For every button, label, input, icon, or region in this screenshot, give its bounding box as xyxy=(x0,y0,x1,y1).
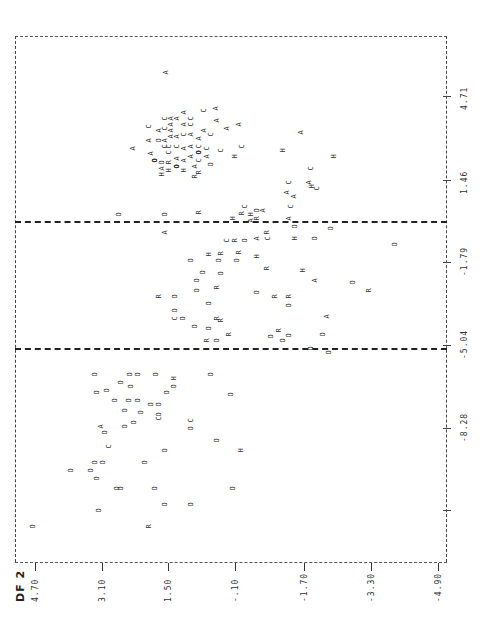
df2-tick-label: 3.10 xyxy=(98,579,107,602)
data-point-o: O xyxy=(118,380,125,384)
data-point-r: R xyxy=(204,338,211,342)
plot-frame-top xyxy=(15,36,447,37)
data-point-a: A xyxy=(188,144,195,148)
df2-tick xyxy=(35,563,36,571)
data-point-o: O xyxy=(188,502,195,506)
data-point-o: O xyxy=(138,410,145,414)
data-point-h: H xyxy=(171,376,178,380)
data-point-a: A xyxy=(254,236,261,240)
data-point-a: A xyxy=(213,106,220,110)
data-point-o: O xyxy=(118,486,125,490)
df2-tick-label: -.10 xyxy=(231,579,240,602)
data-point-h: H xyxy=(159,172,166,176)
df2-tick-label: -1.70 xyxy=(300,573,309,602)
data-point-c: C xyxy=(166,144,173,148)
data-point-c: C xyxy=(188,122,195,126)
data-point-a: A xyxy=(168,122,175,126)
data-point-a: A xyxy=(148,151,155,155)
data-point-o: O xyxy=(242,238,249,242)
data-point-a: A xyxy=(312,278,319,282)
df1-tick xyxy=(443,96,451,97)
data-point-a: A xyxy=(224,126,231,130)
data-point-r: R xyxy=(272,294,279,298)
data-point-c: C xyxy=(196,158,203,162)
data-point-a: A xyxy=(192,164,199,168)
data-point-o: O xyxy=(156,412,163,416)
data-point-o: O xyxy=(142,460,149,464)
df2-tick xyxy=(371,563,372,571)
data-point-o: O xyxy=(192,324,199,328)
data-point-h: H xyxy=(181,168,188,172)
data-point-a: A xyxy=(204,154,211,158)
data-point-a: A xyxy=(291,194,298,198)
data-point-o: O xyxy=(326,350,333,354)
data-point-o: O xyxy=(218,271,225,275)
data-point-r: R xyxy=(192,174,199,178)
data-point-c: C xyxy=(146,124,153,128)
df2-tick-label: 1.50 xyxy=(164,579,173,602)
data-point-o: O xyxy=(94,390,101,394)
data-point-o: O xyxy=(100,460,107,464)
data-point-o: O xyxy=(148,402,155,406)
data-point-r: R xyxy=(156,294,163,298)
data-point-r: R xyxy=(232,238,239,242)
data-point-a: A xyxy=(162,230,169,234)
data-point-o: O xyxy=(172,294,179,298)
data-point-c: C xyxy=(201,108,208,112)
data-point-a: A xyxy=(196,136,203,140)
df1-tick-label: 1.46 xyxy=(460,171,469,194)
data-point-o: O xyxy=(214,338,221,342)
data-point-o: O xyxy=(92,460,99,464)
data-point-a: A xyxy=(163,70,170,74)
df2-tick-label: -3.30 xyxy=(367,573,376,602)
data-point-o: O xyxy=(104,388,111,392)
data-point-r: R xyxy=(218,251,225,255)
plot-frame-left xyxy=(15,36,16,562)
data-point-o: O xyxy=(152,486,159,490)
data-point-o: O xyxy=(122,408,129,412)
data-point-o: O xyxy=(206,326,213,330)
df1-tick-label: -8.28 xyxy=(460,413,469,442)
data-point-o: O xyxy=(286,303,293,307)
data-point-o: O xyxy=(30,524,37,528)
data-point-o: O xyxy=(320,332,327,336)
data-point-r: R xyxy=(264,230,271,234)
df2-tick xyxy=(235,563,236,571)
data-point-a: A xyxy=(236,122,243,126)
data-point-a: A xyxy=(286,216,293,220)
data-point-c: C xyxy=(156,416,163,420)
data-point-c: C xyxy=(242,204,249,208)
data-point-c: C xyxy=(188,418,195,422)
df1-tick-label: -5.04 xyxy=(460,330,469,359)
data-point-o: O xyxy=(308,346,315,350)
data-point-a: A xyxy=(98,424,105,428)
data-point-o: O xyxy=(172,308,179,312)
data-point-h: H xyxy=(230,216,237,220)
data-point-o: O xyxy=(200,270,207,274)
df1-tick xyxy=(443,510,451,511)
df1-tick xyxy=(443,345,451,346)
data-point-h: H xyxy=(331,154,338,158)
df2-tick-label: -4.90 xyxy=(434,573,443,602)
data-point-h: H xyxy=(300,268,307,272)
data-point-o: O xyxy=(156,402,163,406)
data-point-o: O xyxy=(164,390,171,394)
data-point-o: O xyxy=(162,212,169,216)
data-point-o: O xyxy=(312,236,319,240)
data-point-a: A xyxy=(188,154,195,158)
data-point-o: O xyxy=(102,430,109,434)
data-point-c: C xyxy=(204,146,211,150)
data-point-o: O xyxy=(230,486,237,490)
data-point-o: O xyxy=(208,162,215,166)
data-point-c: C xyxy=(239,144,246,148)
data-point-r: R xyxy=(196,170,203,174)
data-point-a: A xyxy=(284,190,291,194)
data-point-c: C xyxy=(106,444,113,448)
group-boundary-lower xyxy=(15,348,447,350)
plot-frame-bottom xyxy=(15,562,447,563)
data-point-o: O xyxy=(188,426,195,430)
data-point-r: R xyxy=(276,328,283,332)
data-point-r: R xyxy=(366,288,373,292)
data-point-c: C xyxy=(286,180,293,184)
data-point-o: O xyxy=(162,502,169,506)
